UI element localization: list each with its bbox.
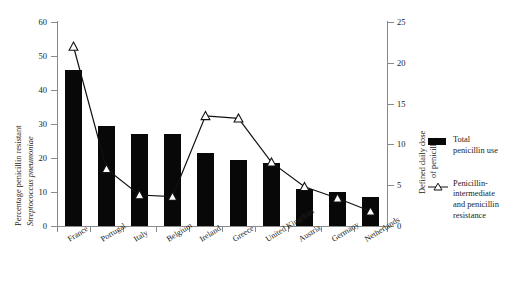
x-axis-tick <box>156 227 157 232</box>
x-label-italy: Italy <box>132 228 150 244</box>
y-axis-right-tick <box>388 22 394 23</box>
legend-label-line1: Penicillin- <box>453 179 499 190</box>
y-axis-right-tick <box>388 63 394 64</box>
legend-triangle-line-swatch <box>428 179 448 194</box>
bar-greece <box>230 160 247 226</box>
legend-label-penicillin-resistance: Penicillin- intermediate and penicillin … <box>453 179 499 222</box>
y-axis-right-tick <box>388 104 394 105</box>
bar-portugal <box>98 126 115 226</box>
bar-series <box>57 22 387 226</box>
y-axis-right-tick-label: 15 <box>397 99 406 109</box>
y-axis-left-tick-label: 30 <box>7 119 47 129</box>
y-axis-right-tick-label: 5 <box>397 180 401 190</box>
legend-label-line2: intermediate <box>453 189 499 200</box>
bar-ireland <box>197 153 214 226</box>
bar-netherlands <box>362 197 379 226</box>
bar-germany <box>329 192 346 226</box>
x-label-france: France <box>66 224 90 243</box>
y-axis-left-title-line1: Percentage penicillin resistant <box>14 126 23 226</box>
y-axis-left-title-species: Streptococcus pneumoniae <box>26 136 35 226</box>
y-axis-right-tick <box>388 144 394 145</box>
legend-bar-swatch <box>428 135 448 145</box>
chart-legend: Total penicillin use Penicillin- interme… <box>428 135 518 244</box>
legend-label-total-penicillin-use: Total penicillin use <box>453 135 498 157</box>
legend-label-line4: resistance <box>453 211 499 222</box>
triangle-marker-icon <box>428 182 448 192</box>
x-axis-tick <box>57 227 58 232</box>
legend-label-line3: and penicillin <box>453 200 499 211</box>
y-axis-left-tick-label: 60 <box>7 17 47 27</box>
legend-label-line2: penicillin use <box>453 146 498 157</box>
y-axis-right-tick-label: 20 <box>397 58 406 68</box>
y-axis-left-title: Percentage penicillin resistant <box>14 126 23 226</box>
y-axis-right-tick-label: 25 <box>397 17 406 27</box>
legend-item-penicillin-resistance: Penicillin- intermediate and penicillin … <box>428 179 518 222</box>
x-axis-tick <box>90 227 91 232</box>
y-axis-right-tick <box>388 185 394 186</box>
y-axis-left-title-line2: Streptococcus pneumoniae <box>26 136 35 226</box>
bar-france <box>65 70 82 226</box>
y-axis-left-tick-label: 40 <box>7 85 47 95</box>
bar-italy <box>131 134 148 226</box>
y-axis-right-title-line1: Defined daily dose <box>418 131 428 194</box>
bar-united-kingdom <box>263 163 280 226</box>
chart-figure: 0102030405060 0510152025 FrancePortugalI… <box>0 0 520 299</box>
legend-label-line1: Total <box>453 135 498 146</box>
y-axis-right-line <box>387 21 388 227</box>
y-axis-left-tick-label: 50 <box>7 51 47 61</box>
bar-belgium <box>164 134 181 226</box>
y-axis-right-tick-label: 10 <box>397 139 406 149</box>
legend-item-total-penicillin-use: Total penicillin use <box>428 135 518 157</box>
y-axis-right-title-text1: Defined daily dose <box>418 131 427 194</box>
